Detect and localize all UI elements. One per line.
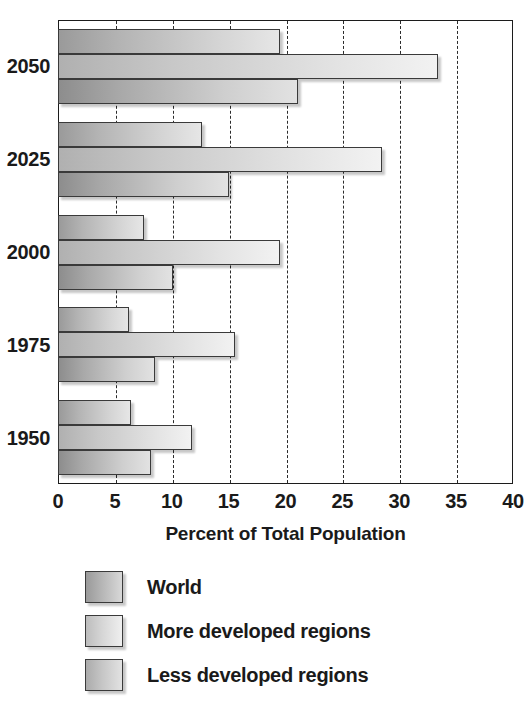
legend-swatch-icon <box>85 615 123 647</box>
y-tick-2025: 2025 <box>0 148 50 171</box>
y-tick-1950: 1950 <box>0 426 50 449</box>
x-tick-25: 25 <box>332 490 354 513</box>
bar-2050-world <box>58 29 280 54</box>
legend-swatch-icon <box>85 659 123 691</box>
x-tick-0: 0 <box>53 490 64 513</box>
chart-legend: WorldMore developed regionsLess develope… <box>85 567 485 699</box>
bar-1950-world <box>58 400 131 425</box>
bar-1975-world <box>58 307 129 332</box>
bar-2000-world <box>58 215 144 240</box>
bar-2025-less-developed-regions <box>58 172 229 197</box>
bar-1950-more-developed-regions <box>58 425 192 450</box>
legend-label: More developed regions <box>147 611 370 651</box>
bar-2025-more-developed-regions <box>58 147 382 172</box>
bar-2050-less-developed-regions <box>58 79 298 104</box>
bar-2000-less-developed-regions <box>58 265 173 290</box>
legend-item-more-developed-regions: More developed regions <box>85 611 485 655</box>
bar-1950-less-developed-regions <box>58 450 151 475</box>
x-tick-10: 10 <box>161 490 183 513</box>
population-bar-chart: 20502025200019751950 0510152025303540 Pe… <box>0 0 532 701</box>
y-tick-1975: 1975 <box>0 333 50 356</box>
bars-group <box>58 20 513 484</box>
x-axis-title: Percent of Total Population <box>58 523 513 545</box>
x-tick-5: 5 <box>109 490 120 513</box>
x-tick-40: 40 <box>502 490 524 513</box>
bar-1975-more-developed-regions <box>58 332 235 357</box>
bar-2050-more-developed-regions <box>58 54 438 79</box>
x-tick-30: 30 <box>388 490 410 513</box>
legend-label: World <box>147 567 202 607</box>
bar-2000-more-developed-regions <box>58 240 280 265</box>
bar-2025-world <box>58 122 202 147</box>
x-tick-35: 35 <box>445 490 467 513</box>
x-tick-20: 20 <box>275 490 297 513</box>
y-tick-2000: 2000 <box>0 241 50 264</box>
legend-swatch-icon <box>85 571 123 603</box>
legend-item-world: World <box>85 567 485 611</box>
legend-item-less-developed-regions: Less developed regions <box>85 655 485 699</box>
legend-label: Less developed regions <box>147 655 368 695</box>
x-tick-15: 15 <box>218 490 240 513</box>
y-tick-2050: 2050 <box>0 55 50 78</box>
bar-1975-less-developed-regions <box>58 357 155 382</box>
